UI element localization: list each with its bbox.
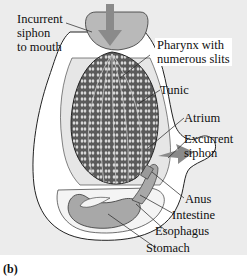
panel-letter: (b) bbox=[3, 262, 18, 277]
label-esophagus: Esophagus bbox=[155, 224, 209, 238]
label-anus: Anus bbox=[185, 192, 211, 206]
label-tunic: Tunic bbox=[160, 83, 189, 97]
label-excurrent-siphon: Excurrent siphon bbox=[184, 132, 233, 160]
label-intestine: Intestine bbox=[172, 208, 215, 222]
label-atrium: Atrium bbox=[184, 111, 220, 125]
label-pharynx: Pharynx with numerous slits bbox=[155, 38, 232, 66]
label-stomach: Stomach bbox=[146, 241, 190, 255]
label-incurrent-siphon: Incurrent siphon to mouth bbox=[17, 12, 63, 54]
